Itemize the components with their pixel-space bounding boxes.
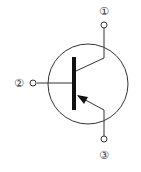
collector-lead <box>76 28 104 71</box>
transistor-envelope <box>48 44 128 124</box>
emitter-arrow-icon <box>77 95 88 104</box>
emitter-lead <box>78 96 104 136</box>
emitter-label: ③ <box>99 149 109 162</box>
base-bar <box>72 57 76 110</box>
base-terminal <box>30 80 36 86</box>
collector-label: ① <box>99 5 109 18</box>
emitter-terminal <box>101 136 107 142</box>
base-label: ② <box>14 77 24 90</box>
transistor-diagram: ② ① ③ <box>0 0 141 172</box>
collector-terminal <box>101 22 107 28</box>
